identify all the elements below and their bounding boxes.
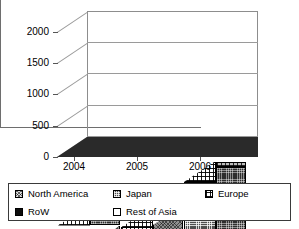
legend-item-north-america[interactable]: North America [15,184,88,203]
depth-line-2000 [57,12,88,33]
depth-line-1500 [57,43,88,64]
y-tick-2000 [53,32,58,33]
legend-item-japan[interactable]: Japan [113,184,152,203]
plot-back-wall [87,11,258,137]
y-axis-label-2000: 2000 [3,27,49,37]
gridline-1000 [87,73,258,74]
depth-line-1000 [57,74,88,95]
y-axis [0,0,1,127]
y-axis-label-1000: 1000 [3,89,49,99]
legend-item-europe[interactable]: Europe [205,184,249,203]
x-axis-label-2005: 2005 [107,161,167,172]
legend-label-japan: Japan [126,189,152,199]
plot-floor [57,137,258,158]
gridline-0 [87,136,258,137]
chart-plot-area: 2000 1500 1000 500 0 [0,0,299,176]
solid-white-swatch-icon [113,208,121,216]
legend-label-rest-of-asia: Rest of Asia [126,207,177,217]
legend-label-row: RoW [28,207,49,217]
solid-black-swatch-icon [15,208,23,216]
y-axis-label-1500: 1500 [3,58,49,68]
y-axis-label-0: 0 [3,152,49,162]
y-tick-1000 [53,94,58,95]
legend-item-row[interactable]: RoW [15,202,49,221]
y-tick-0 [53,157,58,158]
y-tick-1500 [53,63,58,64]
y-axis-label-500: 500 [3,121,49,131]
legend-item-rest-of-asia[interactable]: Rest of Asia [113,202,177,221]
bar-2005-segment-europe [121,227,153,229]
legend-row-1: North America Japan Europe [9,184,290,203]
cross-hatch-swatch-icon [15,190,23,198]
chart-screenshot: 2000 1500 1000 500 0 [0,0,299,229]
legend-row-2: RoW Rest of Asia [9,202,290,221]
depth-line-500 [57,106,88,127]
y-tick-500 [53,126,58,127]
chart-legend: North America Japan Europe RoW Rest of A… [8,183,291,221]
legend-label-europe: Europe [218,189,249,199]
dotted-dark-swatch-icon [113,190,121,198]
x-axis-label-2004: 2004 [44,161,104,172]
legend-label-north-america: North America [28,189,88,199]
gridline-1500 [87,42,258,43]
grid-swatch-icon [205,190,213,198]
bar-2004-side-north-america [90,226,120,229]
x-axis-label-2006: 2006 [170,161,230,172]
gridline-500 [87,105,258,106]
